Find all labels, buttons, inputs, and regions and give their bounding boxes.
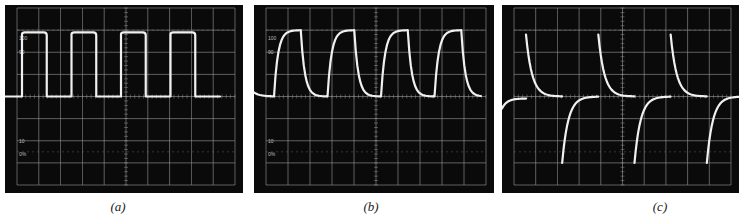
- caption-a-text: (a): [110, 199, 125, 214]
- caption-b: (b): [351, 199, 391, 215]
- scope-screen-a: 10090100%: [5, 5, 243, 193]
- caption-c: (c): [640, 199, 680, 215]
- graticule-label: 0%: [19, 151, 27, 157]
- waveform-trace: [5, 32, 220, 96]
- waveform-trace: [502, 35, 739, 163]
- graticule-label: 100: [19, 35, 28, 41]
- caption-b-text: (b): [363, 199, 378, 214]
- scope-panel-a: 10090100%: [5, 5, 243, 193]
- graticule-label: 90: [268, 49, 274, 55]
- graticule-label: 10: [268, 138, 274, 144]
- graticule-label: 0%: [268, 151, 276, 157]
- scope-screen-b: 10090100%: [254, 5, 494, 193]
- scope-panel-b: 10090100%: [254, 5, 494, 193]
- scope-panel-c: [502, 5, 739, 193]
- caption-a: (a): [98, 199, 138, 215]
- scope-screen-c: [502, 5, 739, 193]
- graticule-label: 100: [268, 35, 277, 41]
- graticule-label: 10: [19, 138, 25, 144]
- caption-c-text: (c): [653, 199, 667, 214]
